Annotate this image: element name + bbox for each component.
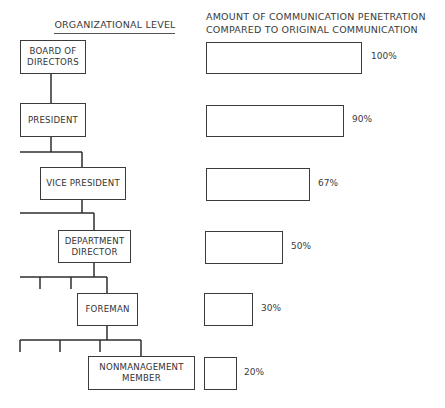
org-box-vice-president: VICE PRESIDENT: [40, 167, 126, 200]
org-label: VICE PRESIDENT: [46, 178, 120, 189]
penetration-value-vice-president: 67%: [318, 178, 338, 188]
penetration-value-foreman: 30%: [261, 303, 281, 313]
org-box-president: PRESIDENT: [20, 103, 86, 137]
org-box-department-director: DEPARTMENT DIRECTOR: [58, 230, 131, 263]
org-box-nonmanagement-member: NONMANAGEMENT MEMBER: [88, 356, 195, 390]
org-label: PRESIDENT: [28, 115, 78, 126]
penetration-bar-president: [206, 105, 344, 137]
penetration-value-president: 90%: [352, 114, 372, 124]
penetration-value-department-director: 50%: [291, 241, 311, 251]
org-label: BOARD OF DIRECTORS: [27, 46, 79, 68]
org-box-board-of-directors: BOARD OF DIRECTORS: [20, 40, 86, 74]
org-label: NONMANAGEMENT MEMBER: [99, 362, 183, 384]
penetration-bar-vice-president: [206, 168, 310, 201]
penetration-value-nonmanagement: 20%: [244, 367, 264, 377]
penetration-bar-foreman: [204, 293, 253, 326]
org-label: FOREMAN: [85, 304, 129, 315]
org-box-foreman: FOREMAN: [77, 293, 138, 326]
penetration-bar-board: [206, 42, 362, 74]
penetration-bar-department-director: [205, 231, 283, 264]
penetration-bar-nonmanagement: [204, 357, 237, 390]
org-label: DEPARTMENT DIRECTOR: [65, 236, 125, 258]
penetration-value-board: 100%: [371, 51, 397, 61]
